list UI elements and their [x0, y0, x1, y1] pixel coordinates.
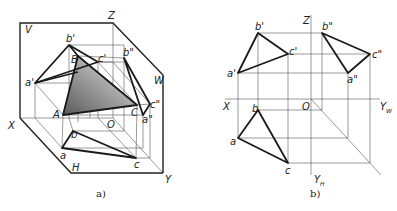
label-z-axis-a: Z — [107, 10, 116, 21]
label-origin-a: O — [107, 119, 115, 130]
label-b-prime-a: b' — [66, 33, 75, 44]
projection-lines-b — [225, 15, 381, 175]
label-point-A: A — [52, 109, 60, 120]
figure-a-isometric: V Z W X H Y O b' c' a' B A C b" c" a" b … — [7, 10, 172, 199]
caption-b: b) — [310, 188, 320, 199]
label-h-plane: H — [72, 162, 80, 173]
label-b-double-prime-a: b" — [123, 47, 134, 58]
label-a-top-a: a — [60, 150, 66, 161]
label-point-B: B — [71, 54, 78, 65]
label-b-top-b: b — [252, 103, 258, 114]
label-yw-axis: YW — [380, 101, 393, 114]
label-c-double-prime-b: c" — [372, 49, 382, 60]
side-projection-triangle-b — [322, 33, 370, 73]
label-point-C: C — [131, 107, 138, 118]
label-b-double-prime-b: b" — [322, 21, 333, 32]
top-projection-triangle-b — [238, 110, 288, 163]
label-x-axis-a: X — [7, 120, 16, 131]
label-a-double-prime-b: a" — [347, 74, 358, 85]
caption-a: a) — [96, 188, 106, 199]
label-w-plane: W — [154, 75, 165, 86]
label-c-top-b: c — [285, 165, 291, 176]
label-y-axis-a: Y — [165, 174, 172, 185]
front-projection-triangle-b — [238, 33, 288, 73]
label-a-top-b: a — [230, 136, 236, 147]
label-x-axis-b: X — [222, 101, 231, 112]
label-c-prime-b: c' — [289, 46, 297, 57]
label-b-prime-b: b' — [255, 21, 264, 32]
projection-diagrams: V Z W X H Y O b' c' a' B A C b" c" a" b … — [0, 0, 397, 211]
label-a-prime-a: a' — [25, 77, 34, 88]
label-c-top-a: c — [134, 159, 140, 170]
label-b-top-a: b — [71, 129, 77, 140]
label-a-double-prime-a: a" — [142, 114, 153, 125]
label-c-prime-a: c' — [98, 53, 106, 64]
h-plane-frame — [20, 118, 163, 173]
label-c-double-prime-a: c" — [150, 99, 160, 110]
label-yh-axis: YH — [314, 174, 325, 187]
label-z-axis-b: Z — [302, 15, 311, 26]
label-origin-b: O — [302, 101, 310, 112]
figure-b-orthographic: Z X O YW YH b' c' a' b" c" a" b a c b) — [222, 15, 393, 199]
label-v-plane: V — [25, 24, 33, 35]
label-a-prime-b: a' — [227, 68, 236, 79]
